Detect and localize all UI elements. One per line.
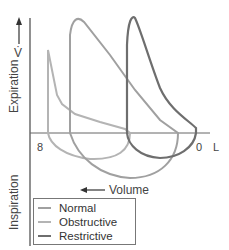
x-axis-label: Volume <box>109 183 149 197</box>
normal-curve <box>70 19 178 178</box>
volume-arrowhead-icon <box>80 187 87 193</box>
legend-label: Normal <box>59 202 96 214</box>
legend-item-restrictive: Restrictive <box>38 229 113 243</box>
restrictive-curve <box>127 17 196 158</box>
restrictive-swatch-icon <box>38 235 51 238</box>
normal-swatch-icon <box>38 207 51 209</box>
legend-item-normal: Normal <box>38 201 96 215</box>
inspiration-label: Inspiration <box>7 175 21 230</box>
y-axis-symbol: V̇ <box>14 46 22 60</box>
legend-label: Restrictive <box>59 230 113 242</box>
x-tick-8: 8 <box>37 141 43 153</box>
expiration-label: Expiration <box>7 60 21 113</box>
x-tick-0: 0 <box>196 141 202 153</box>
legend: Normal Obstructive Restrictive <box>33 198 136 245</box>
obstructive-swatch-icon <box>38 221 51 223</box>
x-unit: L <box>213 141 219 153</box>
y-arrowhead-icon <box>16 17 22 25</box>
legend-label: Obstructive <box>59 216 117 228</box>
legend-item-obstructive: Obstructive <box>38 215 117 229</box>
